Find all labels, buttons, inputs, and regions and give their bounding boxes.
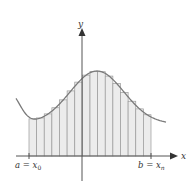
x-axis-label: x bbox=[181, 151, 186, 161]
riemann-strip bbox=[37, 118, 45, 156]
riemann-strip bbox=[44, 114, 52, 156]
riemann-strip bbox=[67, 91, 75, 156]
riemann-strip bbox=[121, 92, 129, 156]
riemann-strip bbox=[105, 76, 113, 156]
riemann-strip bbox=[52, 108, 60, 156]
y-axis-arrow-icon bbox=[79, 28, 86, 36]
left-endpoint-label: a = x0 bbox=[15, 160, 41, 171]
y-axis-label: y bbox=[77, 19, 84, 29]
riemann-strip bbox=[98, 72, 106, 156]
riemann-strip bbox=[128, 101, 136, 156]
x-axis-arrow-icon bbox=[170, 153, 178, 160]
riemann-strip bbox=[90, 71, 98, 156]
riemann-strip bbox=[82, 75, 90, 156]
riemann-strip bbox=[75, 82, 83, 156]
right-endpoint-label: b = xn bbox=[138, 160, 165, 171]
riemann-strip bbox=[136, 109, 144, 156]
riemann-sum-diagram: y x a = x0 b = xn bbox=[0, 0, 194, 188]
riemann-strip bbox=[143, 115, 151, 156]
riemann-strip bbox=[60, 100, 68, 156]
riemann-strip bbox=[113, 83, 121, 156]
riemann-strip bbox=[29, 119, 37, 156]
